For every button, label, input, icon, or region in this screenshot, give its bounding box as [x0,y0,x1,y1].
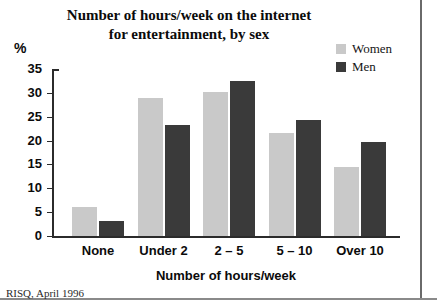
y-axis-tick-labels: 05101520253035 [8,69,42,236]
y-axis-tick-label: 15 [28,156,42,171]
chart-page: Number of hours/week on the internet for… [0,0,437,307]
x-axis-tick-labels: NoneUnder 22 – 55 – 10Over 10 [52,243,400,263]
bar-group [138,69,190,236]
bar-men [361,142,386,236]
bar-men [165,125,190,236]
legend-label-women: Women [352,41,392,57]
y-axis-tick-label: 20 [28,133,42,148]
y-axis-tick [47,93,52,94]
bar-women [203,92,228,236]
bar-men [296,120,321,236]
y-axis-tick-label: 35 [28,61,42,76]
legend-item-women: Women [336,41,432,57]
bar-men [230,81,255,236]
y-axis-cap [52,69,59,71]
y-axis-tick [47,212,52,213]
y-axis-tick-label: 30 [28,85,42,100]
legend-swatch-women-icon [336,44,346,54]
chart-title: Number of hours/week on the internet for… [44,6,334,44]
y-axis-tick [47,236,52,237]
x-axis-title: Number of hours/week [52,268,400,283]
source-note: RISQ, April 1996 [6,287,84,299]
bar-women [269,133,294,236]
bar-group [269,69,321,236]
y-axis-tick-label: 25 [28,109,42,124]
y-axis-tick [47,188,52,189]
y-axis-tick-label: 5 [35,204,42,219]
bar-group [203,69,255,236]
y-axis-tick-label: 10 [28,180,42,195]
bar-women [138,98,163,236]
chart-title-line-1: Number of hours/week on the internet [67,7,311,23]
y-axis-tick-label: 0 [35,228,42,243]
x-axis-tick-label: Over 10 [310,243,410,258]
bar-men [99,221,124,236]
bar-group [334,69,386,236]
y-axis-tick [47,141,52,142]
bar-group [72,69,124,236]
plot-area [52,69,400,236]
bar-women [72,207,97,236]
y-axis-tick [47,117,52,118]
bar-women [334,167,359,236]
y-axis-tick [47,164,52,165]
y-axis-line [52,69,54,236]
y-axis-unit-label: % [14,40,26,56]
x-axis-line [52,236,400,238]
chart-title-line-2: for entertainment, by sex [44,25,334,44]
